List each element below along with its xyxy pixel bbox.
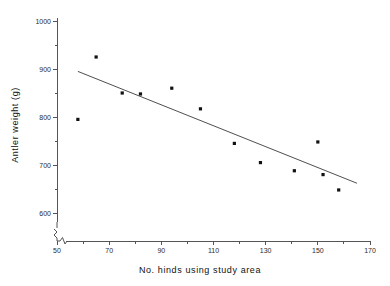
x-tick-label: 50 <box>53 247 61 254</box>
y-axis-title: Antler weight (g) <box>10 87 20 163</box>
data-point <box>121 91 124 94</box>
x-tick-label: 170 <box>364 247 376 254</box>
x-axis-title: No. hinds using study area <box>139 265 261 275</box>
data-point <box>233 142 236 145</box>
data-point <box>337 188 340 191</box>
data-point <box>76 118 79 121</box>
data-point <box>170 87 173 90</box>
data-point <box>293 169 296 172</box>
scatter-chart: 6007008009001000 507090110130150170 No. … <box>0 0 390 286</box>
y-tick-label: 900 <box>39 66 51 73</box>
data-point <box>139 92 142 95</box>
chart-background <box>0 0 390 286</box>
y-tick-label: 800 <box>39 114 51 121</box>
data-point <box>316 140 319 143</box>
data-point <box>95 55 98 58</box>
x-tick-label: 70 <box>105 247 113 254</box>
x-tick-label: 130 <box>260 247 272 254</box>
y-tick-label: 600 <box>39 210 51 217</box>
data-point <box>321 173 324 176</box>
x-tick-label: 110 <box>208 247 219 254</box>
y-tick-label: 1000 <box>35 18 51 25</box>
y-tick-label: 700 <box>39 162 51 169</box>
data-point <box>199 107 202 110</box>
x-tick-label: 150 <box>312 247 324 254</box>
data-point <box>259 161 262 164</box>
x-tick-label: 90 <box>157 247 165 254</box>
